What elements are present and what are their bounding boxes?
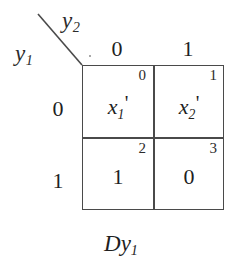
kmap-cell-2[interactable]: 2 1 bbox=[83, 139, 153, 210]
caption-variable: y bbox=[121, 231, 131, 256]
kmap-cell-index-2: 2 bbox=[139, 141, 147, 156]
kmap-cell-0[interactable]: 0 x1' bbox=[83, 66, 153, 137]
kmap-cell-value-1-var: x bbox=[179, 94, 189, 119]
column-variable-label: y2 bbox=[62, 9, 80, 34]
kmap-cell-value-1-prime: ' bbox=[196, 92, 200, 114]
karnaugh-map-figure: y2 y1 0 1 0 1 0 x1' 1 x2' 2 1 3 0 Dy1 bbox=[0, 0, 242, 277]
kmap-cell-index-3: 3 bbox=[210, 141, 218, 156]
kmap-cell-index-0: 0 bbox=[139, 68, 147, 83]
kmap-cell-value-1: x2' bbox=[154, 93, 224, 121]
kmap-cell-value-1-sub: 2 bbox=[188, 107, 195, 122]
kmap-grid: 0 x1' 1 x2' 2 1 3 0 bbox=[82, 65, 224, 210]
row-variable-name: y bbox=[15, 41, 25, 66]
kmap-cell-1[interactable]: 1 x2' bbox=[154, 66, 224, 137]
column-variable-name: y bbox=[62, 8, 72, 33]
kmap-cell-value-0-var: x bbox=[108, 94, 118, 119]
kmap-cell-value-0-sub: 1 bbox=[117, 107, 124, 122]
caption-subscript: 1 bbox=[131, 242, 138, 258]
column-header-1: 1 bbox=[174, 38, 202, 60]
column-variable-subscript: 2 bbox=[73, 19, 80, 35]
kmap-cell-value-3: 0 bbox=[154, 166, 224, 188]
kmap-cell-value-0-prime: ' bbox=[125, 92, 129, 114]
figure-caption: Dy1 bbox=[0, 232, 242, 257]
row-header-1: 1 bbox=[44, 170, 72, 192]
row-variable-subscript: 1 bbox=[26, 52, 33, 68]
caption-prefix: D bbox=[104, 231, 121, 256]
row-header-0: 0 bbox=[44, 98, 72, 120]
row-variable-label: y1 bbox=[15, 42, 33, 67]
kmap-cell-value-0: x1' bbox=[83, 93, 153, 121]
kmap-cell-value-2: 1 bbox=[83, 166, 153, 188]
kmap-cell-index-1: 1 bbox=[210, 68, 218, 83]
kmap-cell-3[interactable]: 3 0 bbox=[154, 139, 224, 210]
column-header-0: 0 bbox=[103, 38, 131, 60]
corner-artifact-dot bbox=[89, 55, 91, 57]
